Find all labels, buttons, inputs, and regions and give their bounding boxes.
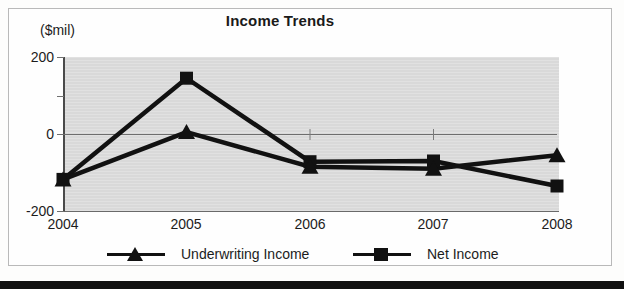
legend-label-underwriting-income: Underwriting Income <box>181 246 309 262</box>
chart-figure: Income Trends ($mil) 200 0 -200 2004 200… <box>0 0 624 289</box>
legend-key-triangle <box>105 244 167 264</box>
marker-net-income-2005 <box>180 72 193 85</box>
square-marker-icon <box>374 248 388 261</box>
marker-net-income-2008 <box>551 180 564 193</box>
page-bottom-rule <box>0 281 624 289</box>
legend-label-net-income: Net Income <box>427 246 499 262</box>
legend-key-square <box>351 244 413 264</box>
legend-entry-net-income: Net Income <box>351 243 499 265</box>
legend-entry-underwriting-income: Underwriting Income <box>105 243 309 265</box>
chart-legend: Underwriting Income Net Income <box>63 243 563 265</box>
triangle-marker-icon <box>127 247 143 261</box>
